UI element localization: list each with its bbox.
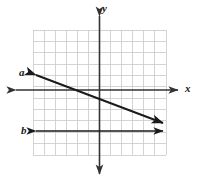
coordinate-plane xyxy=(0,0,204,184)
y-axis-label: y xyxy=(102,3,107,14)
line-b-label: b xyxy=(21,125,27,136)
graph-figure: y x a b xyxy=(0,0,204,184)
x-axis-label: x xyxy=(185,83,191,94)
line-a-label: a xyxy=(19,67,25,78)
